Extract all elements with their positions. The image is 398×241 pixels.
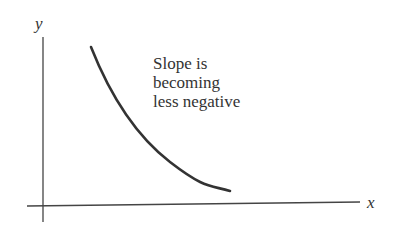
x-axis-label: x — [366, 193, 375, 212]
annotation-line-2: becoming — [153, 73, 221, 92]
graph: y x Slope is becoming less negative — [0, 0, 398, 241]
annotation-line-3: less negative — [153, 92, 240, 111]
x-axis — [27, 202, 360, 206]
diagram-canvas: y x Slope is becoming less negative — [0, 0, 398, 241]
y-axis-label: y — [33, 14, 43, 33]
annotation-line-1: Slope is — [153, 54, 207, 73]
